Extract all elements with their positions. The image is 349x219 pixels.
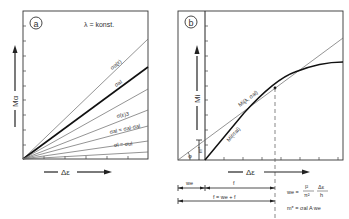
dim-f-label: f	[233, 180, 235, 186]
diagram-canvas: a λ = konst. σα(ε) σal σ(ε)3 σal = σal·σ…	[0, 0, 349, 219]
panel-a: a λ = konst. σα(ε) σal σ(ε)3 σal = σal·σ…	[11, 11, 148, 177]
m-star-label: m*	[197, 147, 203, 153]
formula-frac-num: Δε	[318, 184, 325, 190]
panel-a-y-axis-label: Mα	[11, 45, 20, 127]
label-curve-1: σα(ε)	[109, 58, 123, 71]
dim-we-label: we	[185, 180, 193, 186]
curve-4	[23, 110, 148, 159]
panel-a-frame	[23, 11, 148, 159]
panel-a-y-label: Mα	[11, 95, 20, 107]
arrow-right-icon	[302, 170, 310, 175]
curve-7	[23, 152, 148, 159]
arrow-right-icon	[104, 170, 112, 175]
mi-curve	[205, 62, 343, 160]
panel-a-note: λ = konst.	[84, 21, 114, 28]
formula-frac-den: h	[320, 192, 323, 198]
label-lower-curve: Mi(σal)	[225, 126, 241, 143]
dim-total-label: f = we + f	[213, 194, 236, 200]
panel-b-frame	[178, 11, 343, 160]
label-curve-4: σal = σal·σal	[109, 123, 141, 135]
formula-we-den: π²	[304, 192, 310, 198]
panel-a-x-label: Δε	[61, 168, 70, 177]
formula-we-lhs: we =	[286, 189, 299, 195]
arrow-up-icon	[195, 45, 200, 54]
label-curve-5: σl = σul	[114, 140, 133, 148]
formula-m-star: m* = σal A we	[287, 205, 321, 211]
arrow-up-icon	[13, 45, 18, 53]
panel-b-badge: b	[188, 18, 193, 28]
panel-b-x-label: Δε	[246, 168, 255, 177]
formula-we-num: l²	[305, 184, 308, 190]
panel-a-badge: a	[33, 19, 38, 29]
panel-b: b Mi(λ, σal) Mi(σal) φ m* Mi Δε	[178, 11, 343, 219]
formula-we: we = l² π² Δε h	[286, 184, 328, 198]
tangent-line	[178, 38, 343, 160]
label-tangent: Mi(λ, σal)	[237, 89, 259, 108]
panel-b-x-axis-label: Δε	[228, 168, 310, 177]
panel-a-x-axis-label: Δε	[44, 168, 112, 177]
angle-label: φ	[188, 153, 192, 159]
panel-b-y-label: Mi	[193, 94, 202, 103]
panel-b-y-axis-label: Mi	[193, 45, 202, 130]
